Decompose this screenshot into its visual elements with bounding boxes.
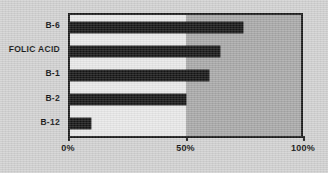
bar-b-2 [70, 94, 186, 105]
x-tick-label-0: 0% [61, 143, 74, 153]
category-label-folic-acid: FOLIC ACID [9, 37, 60, 61]
x-axis-tick-marks [68, 136, 303, 142]
bar-b-6 [70, 22, 243, 33]
category-label-b-1: B-1 [45, 61, 60, 85]
bars-container [70, 15, 301, 136]
x-tick-label-50: 50% [176, 143, 195, 153]
bar-row [70, 88, 301, 112]
bar-row [70, 63, 301, 87]
x-tick-label-100: 100% [291, 143, 315, 153]
bar-folic-acid [70, 46, 220, 57]
category-label-b-2: B-2 [45, 86, 60, 110]
tick-mark-100 [303, 136, 305, 141]
x-axis-tick-labels: 0% 50% 100% [0, 143, 328, 159]
bar-b-1 [70, 70, 209, 81]
bar-row [70, 39, 301, 63]
plot-area [68, 13, 303, 138]
bar-chart-figure: B-6 FOLIC ACID B-1 B-2 B-12 0% 50% 100% [0, 0, 328, 173]
tick-mark-50 [186, 136, 188, 141]
tick-mark-0 [68, 136, 70, 141]
bar-row [70, 112, 301, 136]
category-label-b-6: B-6 [45, 13, 60, 37]
y-axis-category-labels: B-6 FOLIC ACID B-1 B-2 B-12 [0, 13, 64, 138]
bar-b-12 [70, 118, 91, 129]
category-label-b-12: B-12 [40, 110, 60, 134]
bar-row [70, 15, 301, 39]
